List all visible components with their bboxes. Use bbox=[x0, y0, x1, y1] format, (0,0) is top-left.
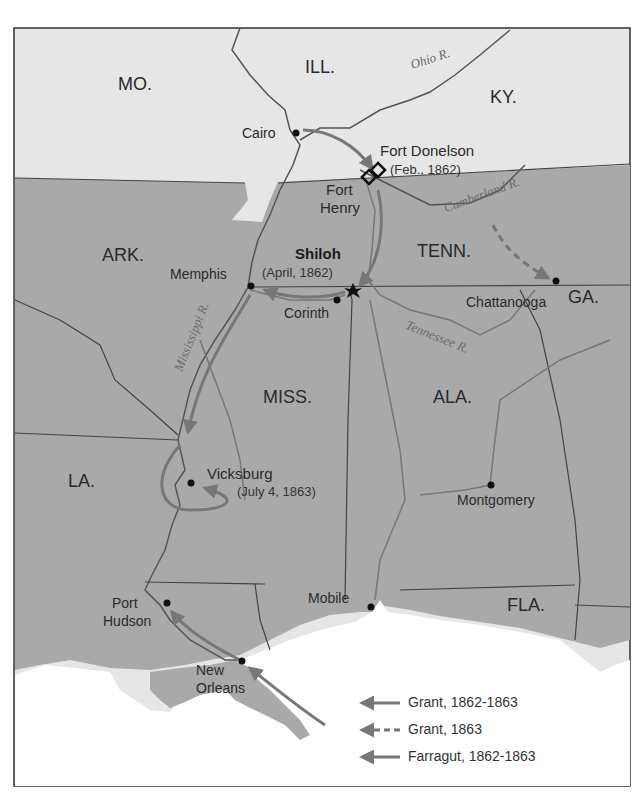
state-label-ill: ILL. bbox=[305, 58, 335, 77]
city-label-port-hudson-1: Port bbox=[112, 596, 138, 611]
city-label-port-hudson-2: Hudson bbox=[103, 614, 151, 629]
state-label-mo: MO. bbox=[118, 75, 152, 94]
date-fort-donelson: (Feb., 1862) bbox=[390, 163, 461, 177]
legend-item-farragut-1862-1863: Farragut, 1862-1863 bbox=[408, 748, 536, 764]
city-label-fort-donelson: Fort Donelson bbox=[380, 143, 474, 159]
legend-item-grant-1863: Grant, 1863 bbox=[408, 721, 482, 737]
city-label-mobile: Mobile bbox=[308, 591, 349, 606]
city-label-new-orleans-2: Orleans bbox=[196, 681, 245, 696]
city-label-cairo: Cairo bbox=[242, 126, 275, 141]
date-shiloh: (April, 1862) bbox=[262, 266, 333, 280]
state-label-fla: FLA. bbox=[507, 596, 545, 615]
city-label-chattanooga: Chattanooga bbox=[466, 295, 546, 310]
state-label-ga: GA. bbox=[568, 288, 599, 307]
legend-label: Farragut, 1862-1863 bbox=[408, 748, 536, 764]
state-label-miss: MISS. bbox=[263, 388, 312, 407]
civil-war-western-campaigns-map bbox=[0, 0, 640, 805]
city-label-vicksburg: Vicksburg bbox=[207, 466, 273, 482]
city-label-corinth: Corinth bbox=[284, 306, 329, 321]
battle-label-shiloh: Shiloh bbox=[295, 246, 341, 262]
city-label-montgomery: Montgomery bbox=[457, 493, 535, 508]
legend-label: Grant, 1862-1863 bbox=[408, 694, 518, 710]
state-label-ark: ARK. bbox=[102, 246, 144, 265]
state-label-ky: KY. bbox=[490, 88, 517, 107]
city-label-fort-henry-1: Fort bbox=[326, 182, 353, 198]
legend-label: Grant, 1863 bbox=[408, 721, 482, 737]
date-vicksburg: (July 4, 1863) bbox=[237, 485, 316, 499]
city-label-memphis: Memphis bbox=[170, 267, 227, 282]
legend-item-grant-1862-1863: Grant, 1862-1863 bbox=[408, 694, 518, 710]
state-label-la: LA. bbox=[68, 472, 95, 491]
city-label-fort-henry-2: Henry bbox=[320, 200, 360, 216]
state-label-tenn: TENN. bbox=[417, 242, 471, 261]
city-label-new-orleans-1: New bbox=[196, 663, 224, 678]
state-label-ala: ALA. bbox=[433, 388, 472, 407]
